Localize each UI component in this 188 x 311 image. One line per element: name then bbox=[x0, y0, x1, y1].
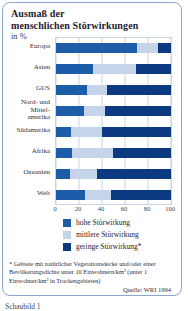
figure-caption: Schaubild 1 bbox=[5, 302, 41, 311]
bar-segment bbox=[56, 85, 87, 95]
stacked-bar bbox=[56, 127, 171, 137]
gridline bbox=[56, 38, 57, 204]
legend-swatch bbox=[63, 219, 71, 227]
x-tick-label: 60 bbox=[121, 205, 128, 212]
bar-segment bbox=[113, 148, 171, 158]
bar-segment bbox=[137, 43, 159, 53]
bar-segment bbox=[84, 106, 106, 116]
bar-segment bbox=[136, 64, 171, 74]
bar-segment bbox=[105, 106, 171, 116]
category-label: Asien bbox=[5, 64, 50, 72]
stacked-bar bbox=[56, 190, 171, 200]
category-labels: EuropaAsienGUSNord- und Mittel- amerikaS… bbox=[5, 37, 53, 203]
stacked-bar bbox=[56, 148, 171, 158]
source-label: Quelle: WRI 1994 bbox=[123, 286, 171, 293]
legend-swatch bbox=[63, 243, 71, 251]
category-label: GUS bbox=[5, 85, 50, 93]
bar-segment bbox=[56, 64, 93, 74]
plot-area bbox=[55, 37, 172, 205]
chart-title: Ausmaß der menschlichen Störwirkungen bbox=[11, 8, 138, 31]
stacked-bar bbox=[56, 169, 171, 179]
chart-title-line2: menschlichen Störwirkungen bbox=[11, 20, 138, 32]
bar-segment bbox=[56, 169, 70, 179]
bar-segment bbox=[56, 148, 72, 158]
x-tick-label: 80 bbox=[144, 205, 151, 212]
legend-label: hohe Störwirkung bbox=[76, 218, 130, 227]
category-label: Nord- und Mittel- amerika bbox=[5, 99, 50, 122]
legend-item: mittlere Störwirkung bbox=[63, 230, 142, 239]
category-label: Afrika bbox=[5, 148, 50, 156]
x-tick-label: 40 bbox=[98, 205, 105, 212]
x-axis-ticks: 020406080100 bbox=[55, 205, 170, 215]
stacked-bar bbox=[56, 64, 171, 74]
footnote: * Gebiete mit natürlicher Vegetationsdec… bbox=[9, 260, 175, 285]
bar-segment bbox=[56, 106, 84, 116]
stacked-bar bbox=[56, 85, 171, 95]
bar-segment bbox=[97, 169, 171, 179]
bar-segment bbox=[87, 85, 107, 95]
gridline bbox=[125, 38, 126, 204]
legend: hohe Störwirkungmittlere Störwirkunggeri… bbox=[63, 218, 142, 254]
bar-segment bbox=[102, 127, 171, 137]
bar-segment bbox=[85, 190, 111, 200]
bar-segment bbox=[93, 64, 137, 74]
bar-segment bbox=[107, 85, 171, 95]
bar-segment bbox=[111, 190, 171, 200]
gridline bbox=[79, 38, 80, 204]
gridline bbox=[148, 38, 149, 204]
legend-item: hohe Störwirkung bbox=[63, 218, 142, 227]
category-label: Ozeanien bbox=[5, 169, 50, 177]
bar-segment bbox=[56, 127, 71, 137]
legend-item: geringe Störwirkung* bbox=[63, 242, 142, 251]
x-tick-label: 0 bbox=[53, 205, 56, 212]
x-tick-label: 100 bbox=[165, 205, 175, 212]
legend-label: mittlere Störwirkung bbox=[76, 230, 139, 239]
category-label: Südamerika bbox=[5, 127, 50, 135]
category-label: Europa bbox=[5, 43, 50, 51]
x-tick-label: 20 bbox=[75, 205, 82, 212]
bar-segment bbox=[56, 43, 137, 53]
bar-segment bbox=[56, 190, 85, 200]
category-label: Welt bbox=[5, 190, 50, 198]
bar-segment bbox=[72, 148, 113, 158]
bar-segment bbox=[71, 127, 102, 137]
chart-card: Ausmaß der menschlichen Störwirkungen in… bbox=[2, 2, 182, 296]
legend-swatch bbox=[63, 231, 71, 239]
chart-title-line1: Ausmaß der bbox=[11, 8, 138, 20]
gridline bbox=[102, 38, 103, 204]
gridline bbox=[171, 38, 172, 204]
stacked-bar bbox=[56, 106, 171, 116]
stacked-bar bbox=[56, 43, 171, 53]
legend-label: geringe Störwirkung* bbox=[76, 242, 142, 251]
bar-segment bbox=[70, 169, 98, 179]
bar-segment bbox=[158, 43, 171, 53]
